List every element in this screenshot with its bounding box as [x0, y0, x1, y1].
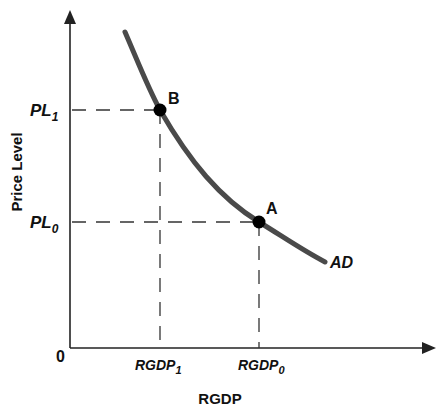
ad-label: AD: [329, 254, 354, 271]
point-a-label: A: [266, 200, 278, 217]
diagram-canvas: B A AD PL1 PL0 RGDP1 RGDP0 0 RGDP Price …: [0, 0, 440, 417]
point-a: [253, 216, 266, 229]
ad-curve-diagram: B A AD PL1 PL0 RGDP1 RGDP0 0 RGDP Price …: [0, 0, 440, 417]
y-axis-title: Price Level: [8, 132, 25, 211]
point-b-label: B: [168, 90, 180, 107]
origin-label: 0: [56, 348, 65, 365]
rgdp0-label: RGDP0: [238, 357, 285, 376]
x-axis-title: RGDP: [198, 390, 241, 407]
y-axis-arrow-icon: [64, 10, 76, 24]
x-axis-arrow-icon: [422, 342, 436, 354]
point-b: [154, 104, 167, 117]
pl0-label: PL0: [30, 213, 59, 236]
ad-curve: [125, 32, 325, 262]
pl1-label: PL1: [30, 101, 59, 124]
rgdp1-label: RGDP1: [135, 357, 182, 376]
